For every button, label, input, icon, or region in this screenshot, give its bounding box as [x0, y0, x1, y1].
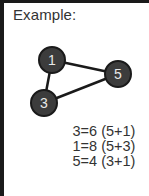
graph-node-3: 3	[31, 90, 57, 116]
graph-node-1: 1	[39, 47, 65, 73]
node-label: 3	[40, 95, 48, 111]
equation-line: 3=6 (5+1)	[66, 124, 142, 139]
equation-line: 5=4 (3+1)	[66, 154, 142, 169]
node-label: 5	[114, 66, 122, 82]
graph-nodes: 153	[31, 47, 131, 116]
equation-line: 1=8 (5+3)	[66, 139, 142, 154]
graph-node-5: 5	[105, 61, 131, 87]
node-label: 1	[48, 52, 56, 68]
equations-list: 3=6 (5+1) 1=8 (5+3) 5=4 (3+1)	[66, 124, 142, 169]
